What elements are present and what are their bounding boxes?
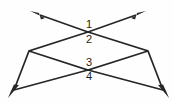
arrowhead-lower-left-icon bbox=[8, 85, 19, 99]
geometry-figure: 1 2 3 4 bbox=[0, 0, 173, 102]
angle-label-1: 1 bbox=[82, 19, 96, 30]
angle-label-4: 4 bbox=[82, 71, 96, 82]
ray-segment-to-lower-left bbox=[14, 70, 88, 90]
geometry-diagram-canvas bbox=[0, 0, 173, 102]
angle-label-3: 3 bbox=[82, 57, 96, 68]
angle-label-2: 2 bbox=[82, 34, 96, 45]
arrowhead-lower-right-icon bbox=[158, 85, 169, 99]
ray-segment-to-lower-right bbox=[88, 70, 163, 90]
line-upper-left-to-lower-right bbox=[30, 11, 169, 98]
line-upper-right-to-lower-left bbox=[8, 11, 146, 98]
